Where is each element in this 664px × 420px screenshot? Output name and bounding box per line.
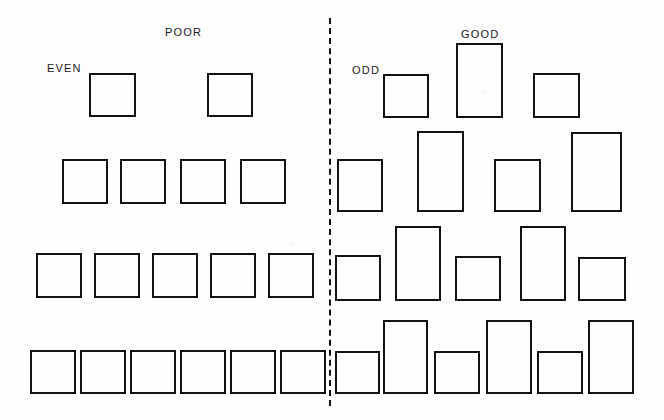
rect-left-row-2-1 [62,159,108,204]
rect-left-row-4-1 [30,350,76,394]
caption-poor: POOR [165,26,202,38]
rect-right-row-2-1 [337,159,383,212]
rect-left-row-3-4 [210,253,256,298]
rect-left-row-4-4 [180,350,226,394]
rect-right-row-2-2 [417,131,464,212]
rect-right-row-1-1 [383,74,429,118]
rect-right-row-4-3 [434,351,480,394]
caption-good: GOOD [461,28,499,40]
rect-right-row-3-1 [335,255,381,301]
rect-left-row-2-2 [120,159,166,204]
rect-right-row-3-2 [395,226,441,301]
caption-odd: ODD [352,64,380,76]
rect-right-row-1-2 [456,43,503,118]
rect-right-row-1-3 [533,73,580,118]
rect-right-row-4-6 [588,320,634,394]
rect-right-row-3-4 [520,226,566,301]
rect-left-row-4-2 [80,350,126,394]
rect-right-row-4-2 [383,320,428,394]
rect-right-row-4-1 [335,351,380,394]
rect-right-row-4-5 [537,351,583,394]
rect-left-row-2-4 [240,159,286,204]
vertical-dashed-divider [329,18,331,406]
rect-left-row-3-1 [36,253,82,298]
rect-left-row-3-2 [94,253,140,298]
rect-left-row-1-1 [89,73,136,117]
rect-right-row-3-5 [578,257,626,301]
rect-left-row-2-3 [180,159,226,204]
caption-even: EVEN [47,62,82,74]
rect-left-row-3-3 [152,253,198,298]
rect-left-row-1-2 [207,73,253,117]
rect-right-row-2-3 [494,159,541,212]
rect-left-row-4-3 [130,350,176,394]
rect-left-row-4-6 [280,350,326,394]
rect-left-row-3-5 [268,253,314,298]
rect-left-row-4-5 [230,350,276,394]
rect-right-row-2-4 [571,132,622,212]
layout-comparison-figure: POOR EVEN GOOD ODD [0,0,664,420]
rect-right-row-4-4 [486,320,532,394]
rect-right-row-3-3 [455,256,501,301]
